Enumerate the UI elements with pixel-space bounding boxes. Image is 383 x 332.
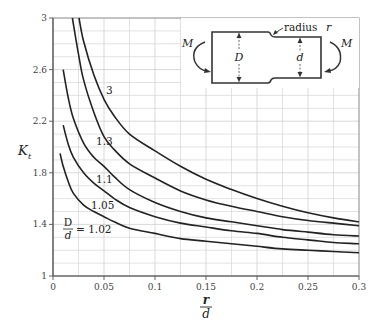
x-tick-label: 0	[50, 282, 56, 292]
radius-var: r	[326, 21, 332, 34]
curve-label-3: 3	[106, 84, 113, 96]
y-tick-label: 3	[41, 13, 47, 23]
x-tick-label: 0.3	[352, 282, 367, 292]
curve-label-1-05: 1.05	[91, 199, 114, 211]
fraction-denominator: d	[65, 229, 72, 241]
radius-label: radius	[284, 21, 318, 33]
x-tick-label: 0.1	[148, 282, 162, 292]
stress-concentration-chart: 00.050.10.150.20.250.311.41.82.22.63 D d…	[0, 0, 383, 332]
left-moment-label: M	[181, 37, 194, 50]
shaft-inset: D d radius r M M	[181, 18, 359, 88]
x-axis-label-denominator: d	[202, 307, 210, 321]
fraction-value: = 1.02	[76, 223, 112, 235]
y-tick-label: 1.8	[33, 168, 48, 178]
y-tick-label: 2.2	[33, 116, 47, 126]
x-tick-label: 0.05	[94, 282, 114, 292]
inset-background	[181, 18, 359, 88]
fraction-numerator: D	[64, 216, 72, 228]
x-axis-label-numerator: r	[203, 293, 211, 307]
right-moment-label: M	[340, 37, 353, 50]
x-tick-label: 0.15	[196, 282, 216, 292]
y-tick-label: 1	[41, 271, 47, 281]
curve-label-1-3: 1.3	[96, 135, 113, 147]
small-diameter-label: d	[296, 51, 303, 64]
curve-label-1-1: 1.1	[96, 173, 113, 185]
x-tick-label: 0.25	[298, 282, 318, 292]
y-axis-label-sub: t	[28, 152, 32, 161]
big-diameter-label: D	[234, 51, 244, 64]
y-axis-label: K t	[17, 143, 32, 161]
y-tick-label: 1.4	[33, 219, 48, 229]
x-tick-label: 0.2	[250, 282, 264, 292]
x-axis-label: r d	[200, 293, 212, 321]
y-tick-label: 2.6	[33, 65, 48, 75]
